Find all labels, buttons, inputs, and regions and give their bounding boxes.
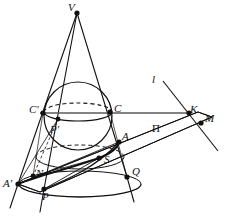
point-marker-M <box>198 120 203 125</box>
label-Q: Q <box>132 166 140 177</box>
plane-pi-lower-edge <box>40 117 212 192</box>
point-marker-C <box>107 109 112 114</box>
label-C-prime: C' <box>29 104 39 115</box>
point-marker-S <box>96 155 101 160</box>
label-P: P <box>42 191 49 202</box>
point-marker-V <box>74 10 79 15</box>
tangent-circle-back-arc <box>44 103 112 112</box>
cone-generator-right <box>77 13 134 202</box>
label-A-prime: A' <box>3 178 12 189</box>
label-P-prime: P' <box>50 124 59 135</box>
label-K: K <box>190 104 197 115</box>
label-M: M <box>205 113 214 124</box>
label-A: A <box>122 131 129 142</box>
geometry-figure: V l C' C K M P' A П S N Q A' P <box>0 0 231 218</box>
label-plane-pi: П <box>152 123 160 134</box>
label-C: C <box>114 103 121 114</box>
label-N: N <box>36 168 43 179</box>
point-marker-Cp <box>40 110 45 115</box>
point-marker-Pp <box>56 117 61 122</box>
point-marker-Ap <box>15 181 20 186</box>
point-marker-A <box>116 139 121 144</box>
point-marker-N <box>31 174 36 179</box>
point-marker-Q <box>124 174 129 179</box>
conic-section-curve-lower <box>44 142 119 189</box>
label-V: V <box>68 2 75 13</box>
label-S: S <box>104 154 110 165</box>
dandelin-sphere-outline <box>44 82 112 150</box>
label-l: l <box>152 74 155 85</box>
cutting-plane-pi-outline <box>18 112 212 192</box>
